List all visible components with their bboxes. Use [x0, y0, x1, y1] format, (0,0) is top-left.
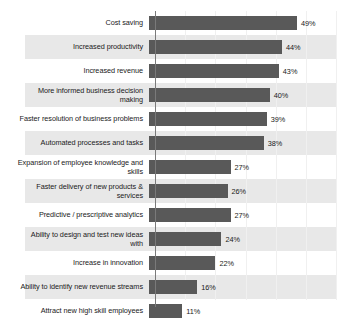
bar	[149, 112, 267, 126]
bar-area: 26%	[149, 179, 349, 203]
bar	[149, 208, 231, 222]
category-label: More informed business decisionmaking	[0, 83, 149, 107]
category-label: Faster resolution of business problems	[0, 107, 149, 131]
bar-area: 38%	[149, 131, 349, 155]
chart-row: Cost saving49%	[0, 11, 349, 35]
bar-value-label: 49%	[301, 19, 315, 28]
bar-area: 49%	[149, 11, 349, 35]
chart-row: Attract new high skill employees11%	[0, 299, 349, 319]
bar	[149, 280, 197, 294]
chart-row: Increased productivity44%	[0, 35, 349, 59]
chart-row: Expansion of employee knowledge andskill…	[0, 155, 349, 179]
bar-area: 27%	[149, 203, 349, 227]
bar	[149, 40, 282, 54]
bar-value-label: 44%	[286, 43, 300, 52]
bar-value-label: 26%	[232, 187, 246, 196]
category-label: Expansion of employee knowledge andskill…	[0, 155, 149, 179]
bar	[149, 304, 182, 318]
category-label: Attract new high skill employees	[0, 299, 149, 319]
bar-area: 40%	[149, 83, 349, 107]
bar-value-label: 27%	[235, 163, 249, 172]
category-label: Automated processes and tasks	[0, 131, 149, 155]
bar-value-label: 38%	[268, 139, 282, 148]
bar-value-label: 39%	[271, 115, 285, 124]
horizontal-bar-chart: Cost saving49%Increased productivity44%I…	[0, 0, 349, 319]
category-label: Faster delivery of new products &service…	[0, 179, 149, 203]
category-label-text: Cost saving	[105, 18, 143, 27]
category-label-text: Increased productivity	[73, 42, 143, 51]
bar-value-label: 11%	[186, 307, 200, 316]
bar	[149, 136, 264, 150]
category-label: Cost saving	[0, 11, 149, 35]
chart-row: Ability to identify new revenue streams1…	[0, 275, 349, 299]
category-label-text: Expansion of employee knowledge andskill…	[18, 158, 143, 176]
category-label: Increased revenue	[0, 59, 149, 83]
chart-row: Faster delivery of new products &service…	[0, 179, 349, 203]
bar-area: 27%	[149, 155, 349, 179]
bar	[149, 232, 221, 246]
category-label: Ability to identify new revenue streams	[0, 275, 149, 299]
bar-area: 39%	[149, 107, 349, 131]
category-label-text: Faster resolution of business problems	[20, 114, 143, 123]
category-label-text: Increased revenue	[83, 66, 143, 75]
bar	[149, 256, 215, 270]
category-label-text: Automated processes and tasks	[41, 138, 143, 147]
chart-row: Automated processes and tasks38%	[0, 131, 349, 155]
bar-area: 44%	[149, 35, 349, 59]
bar-area: 22%	[149, 251, 349, 275]
bar-area: 11%	[149, 299, 349, 319]
chart-row: Faster resolution of business problems39…	[0, 107, 349, 131]
category-label-text: Predictive / prescriptive analytics	[39, 210, 143, 219]
bar-area: 16%	[149, 275, 349, 299]
bar	[149, 160, 231, 174]
bar	[149, 88, 270, 102]
bar	[149, 184, 228, 198]
bar-value-label: 43%	[283, 67, 297, 76]
category-label-text: Ability to identify new revenue streams	[20, 282, 143, 291]
chart-row: Increase in innovation22%	[0, 251, 349, 275]
bar-value-label: 24%	[225, 235, 239, 244]
category-label-text: Attract new high skill employees	[41, 306, 143, 315]
bar-area: 43%	[149, 59, 349, 83]
category-label-text: Faster delivery of new products &service…	[36, 182, 143, 200]
bar-value-label: 40%	[274, 91, 288, 100]
chart-row: Ability to design and test new ideaswith…	[0, 227, 349, 251]
category-label: Ability to design and test new ideaswith	[0, 227, 149, 251]
chart-rows: Cost saving49%Increased productivity44%I…	[0, 11, 349, 319]
bar-value-label: 22%	[219, 259, 233, 268]
chart-row: Increased revenue43%	[0, 59, 349, 83]
category-label-text: More informed business decisionmaking	[38, 86, 143, 104]
bar-value-label: 16%	[201, 283, 215, 292]
category-label-text: Increase in innovation	[73, 258, 143, 267]
bar-value-label: 27%	[235, 211, 249, 220]
category-label: Predictive / prescriptive analytics	[0, 203, 149, 227]
bar	[149, 16, 297, 30]
chart-row: More informed business decisionmaking40%	[0, 83, 349, 107]
chart-row: Predictive / prescriptive analytics27%	[0, 203, 349, 227]
bar-area: 24%	[149, 227, 349, 251]
category-label: Increased productivity	[0, 35, 149, 59]
bar	[149, 64, 279, 78]
category-label-text: Ability to design and test new ideaswith	[31, 230, 143, 248]
value-axis-line	[155, 11, 156, 307]
category-label: Increase in innovation	[0, 251, 149, 275]
